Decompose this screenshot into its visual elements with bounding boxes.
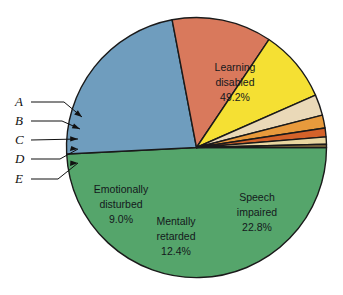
slice-label-emotionally-disturbed-line1: Emotionally bbox=[94, 183, 149, 195]
slice-label-learning-disabled-line2: disabled bbox=[215, 76, 254, 88]
slice-label-emotionally-disturbed-line2: disturbed bbox=[99, 198, 142, 210]
pie-chart-figure: Learning disabled 49.2% Speech impaired … bbox=[0, 0, 343, 295]
callout-letter-c: C bbox=[15, 132, 24, 147]
callout-letter-e: E bbox=[14, 171, 23, 186]
slice-label-mentally-retarded-line2: retarded bbox=[156, 230, 195, 242]
callout-letter-a: A bbox=[14, 94, 23, 109]
slice-label-speech-impaired-line1: Speech bbox=[239, 191, 275, 203]
callout-letter-d: D bbox=[14, 151, 25, 166]
slice-label-mentally-retarded-line1: Mentally bbox=[156, 215, 196, 227]
slice-label-learning-disabled-line1: Learning bbox=[215, 61, 256, 73]
slice-label-mentally-retarded-value: 12.4% bbox=[161, 245, 191, 257]
slice-label-speech-impaired-line2: impaired bbox=[237, 206, 277, 218]
pie-chart-svg: Learning disabled 49.2% Speech impaired … bbox=[0, 0, 343, 295]
callout-letter-b: B bbox=[15, 113, 23, 128]
slice-label-learning-disabled: Learning disabled 49.2% bbox=[215, 61, 256, 103]
pie-slice-learning-disabled[interactable] bbox=[67, 148, 327, 278]
slice-label-speech-impaired-value: 22.8% bbox=[242, 221, 272, 233]
slice-label-speech-impaired: Speech impaired 22.8% bbox=[237, 191, 277, 233]
pie-slices-group bbox=[66, 17, 326, 277]
slice-label-emotionally-disturbed-value: 9.0% bbox=[109, 213, 133, 225]
slice-label-learning-disabled-value: 49.2% bbox=[220, 91, 250, 103]
slice-label-mentally-retarded: Mentally retarded 12.4% bbox=[156, 215, 196, 257]
